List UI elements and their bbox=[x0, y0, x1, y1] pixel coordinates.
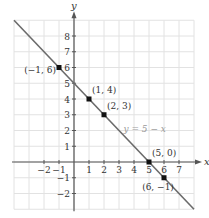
x-tick-label: −2 bbox=[37, 165, 50, 175]
y-tick-label: 8 bbox=[64, 32, 70, 42]
data-point-label: (2, 3) bbox=[107, 101, 131, 111]
y-tick-label: 7 bbox=[64, 47, 70, 57]
y-tick-label: −1 bbox=[57, 173, 70, 183]
x-tick-label: 2 bbox=[101, 165, 107, 175]
x-tick-label: 4 bbox=[131, 165, 137, 175]
data-point-marker bbox=[57, 65, 62, 70]
y-tick-label: 1 bbox=[64, 142, 70, 152]
coordinate-plane-chart: −2−11234567−2−112345678 (−1, 6)(1, 4)(2,… bbox=[0, 0, 209, 218]
x-tick-label: 3 bbox=[116, 165, 122, 175]
x-tick-label: 7 bbox=[176, 165, 182, 175]
equation-label: y = 5 − x bbox=[123, 124, 166, 134]
y-axis-label: y bbox=[70, 0, 77, 11]
y-tick-label: −2 bbox=[57, 189, 70, 199]
x-tick-label: 1 bbox=[86, 165, 92, 175]
y-tick-label: 2 bbox=[64, 126, 70, 136]
y-tick-label: 3 bbox=[64, 110, 70, 120]
data-point-marker bbox=[102, 112, 107, 117]
data-point-label: (−1, 6) bbox=[24, 65, 56, 75]
data-point-marker bbox=[87, 97, 92, 102]
x-axis-label: x bbox=[204, 156, 209, 167]
y-axis-arrow-icon bbox=[72, 11, 77, 18]
data-point-marker bbox=[162, 175, 167, 180]
y-tick-label: 4 bbox=[64, 95, 70, 105]
data-point-marker bbox=[147, 160, 152, 165]
data-point-label: (6, −1) bbox=[142, 182, 174, 192]
x-tick-label: 6 bbox=[161, 165, 167, 175]
data-point-label: (5, 0) bbox=[152, 148, 176, 158]
data-point-label: (1, 4) bbox=[92, 85, 116, 95]
x-tick-label: 5 bbox=[146, 165, 152, 175]
y-tick-label: 5 bbox=[64, 79, 70, 89]
y-tick-label: 6 bbox=[64, 63, 70, 73]
x-axis-arrow-icon bbox=[195, 160, 202, 165]
